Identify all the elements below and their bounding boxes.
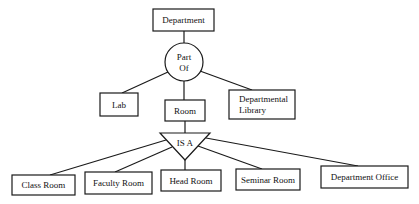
entity-library-label-line2: Library (239, 105, 266, 115)
entity-faculty-room: Faculty Room (85, 172, 152, 194)
entity-lab-label: Lab (112, 100, 126, 110)
entity-departmental-library: Departmental Library (229, 90, 295, 119)
entity-faculty-room-label: Faculty Room (93, 178, 144, 188)
entity-room-label: Room (174, 106, 196, 116)
entity-library-label-line1: Departmental (239, 94, 288, 104)
entity-class-room: Class Room (12, 175, 75, 195)
entity-lab: Lab (100, 93, 138, 116)
edge-partof-library (200, 71, 252, 90)
entity-room: Room (165, 100, 205, 121)
edge-isa-seminarroom (198, 146, 262, 169)
entity-department: Department (153, 9, 214, 31)
entity-department-office-label: Department Office (331, 172, 399, 182)
entity-head-room-label: Head Room (169, 176, 212, 186)
entity-department-label: Department (162, 15, 205, 25)
entity-seminar-room-label: Seminar Room (241, 175, 295, 185)
edge-isa-facultyroom (115, 147, 172, 172)
isa-label: IS A (177, 138, 194, 148)
isa-triangle: IS A (160, 133, 210, 160)
edge-partof-lab (122, 72, 168, 93)
entity-department-office: Department Office (321, 166, 408, 188)
er-diagram: Department Part Of Lab Room Departmental… (0, 0, 419, 204)
entity-seminar-room: Seminar Room (236, 169, 300, 190)
edge-isa-deptoffice (206, 138, 358, 166)
entity-class-room-label: Class Room (22, 180, 66, 190)
relationship-label-line1: Part (177, 52, 192, 62)
relationship-part-of: Part Of (165, 43, 203, 81)
relationship-label-line2: Of (179, 63, 189, 73)
entity-head-room: Head Room (161, 170, 221, 191)
